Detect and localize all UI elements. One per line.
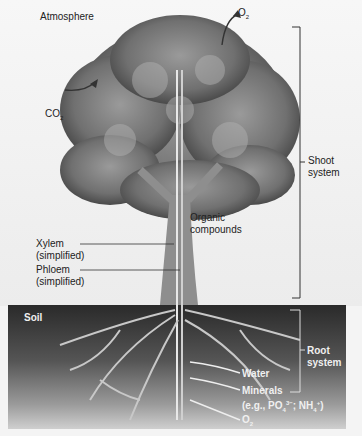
- co2-intake-label: CO2: [45, 108, 63, 124]
- phloem-label: Phloem(simplified): [36, 264, 84, 288]
- minerals-label: Minerals (e.g., PO43−; NH4+): [242, 385, 324, 416]
- atmosphere-label: Atmosphere: [40, 11, 94, 23]
- water-label: Water: [242, 368, 269, 380]
- soil-label: Soil: [24, 312, 42, 324]
- xylem-label: Xylem(simplified): [36, 238, 84, 262]
- plant-transport-diagram: Atmosphere O2 CO2 Shootsystem Organiccom…: [0, 0, 362, 436]
- o2-release-label: O2: [238, 7, 249, 23]
- shoot-bracket: [292, 27, 305, 298]
- o2-uptake-label: O2: [242, 414, 253, 430]
- organic-compounds-label: Organiccompounds: [190, 212, 242, 236]
- shoot-system-label: Shootsystem: [308, 155, 340, 179]
- root-bracket: [290, 310, 305, 392]
- tree-illustration: [0, 0, 362, 436]
- root-system-label: Rootsystem: [307, 345, 341, 369]
